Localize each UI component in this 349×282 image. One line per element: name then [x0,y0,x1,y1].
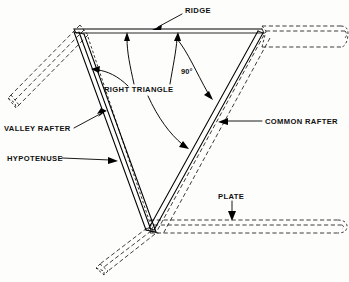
common-rafter-leader-line [218,118,262,125]
label-angle: 90° [181,67,193,76]
right-triangle-leader-ridge-left [124,32,134,84]
ridge-beam [74,29,264,33]
hypotenuse-leader-line [62,157,118,164]
label-plate: PLATE [218,192,244,201]
label-hypotenuse: HYPOTENUSE [7,154,63,163]
common-rafter-beam [149,31,263,230]
plate-leader-line [228,201,236,221]
ridge-leader-line [152,14,182,30]
valley-rafter-beam [74,32,156,232]
right-triangle-leader-common [148,96,189,149]
right-triangle-leader-valley [91,66,128,86]
valley-rafter-leader-line [74,108,107,128]
roof-framing-diagram: RIDGE 90° RIGHT TRIANGLE COMMON RAFTER V… [0,0,349,282]
label-valley-rafter: VALLEY RAFTER [4,124,71,133]
plate-beam-right [150,220,347,233]
label-right-triangle: RIGHT TRIANGLE [104,85,173,94]
ridge-extension-beam [262,26,348,47]
right-triangle-leader-ridge-right [170,32,181,84]
common-rafter-hidden-edges [157,35,270,234]
label-ridge: RIDGE [185,6,211,15]
label-common-rafter: COMMON RAFTER [265,117,338,126]
plate-beam-left [96,228,155,275]
diagram-canvas: RIDGE 90° RIGHT TRIANGLE COMMON RAFTER V… [0,0,349,282]
